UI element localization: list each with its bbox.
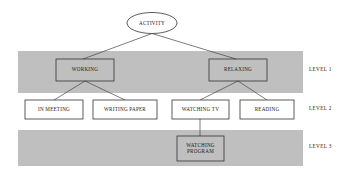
level-label-level-1: LEVEL 1 xyxy=(309,66,332,72)
level-labels: LEVEL 1LEVEL 2LEVEL 3 xyxy=(309,66,332,149)
node-label-watching-program-line-1: WATCHING xyxy=(186,142,215,148)
node-label-activity: ACTIVITY xyxy=(139,20,165,26)
node-writing-paper[interactable]: WRITING PAPER xyxy=(93,100,157,119)
diagram-canvas: ACTIVITYWORKINGRELAXINGIN MEETINGWRITING… xyxy=(0,0,350,174)
node-label-writing-paper: WRITING PAPER xyxy=(104,106,146,112)
level-band-band-level-1 xyxy=(18,51,303,93)
node-label-watching-program-line-2: PROGRAM xyxy=(187,148,214,154)
node-label-in-meeting: IN MEETING xyxy=(38,106,70,112)
node-activity[interactable]: ACTIVITY xyxy=(127,13,177,34)
node-reading[interactable]: READING xyxy=(240,100,294,119)
node-label-reading: READING xyxy=(255,106,280,112)
node-label-watching-tv: WATCHING TV xyxy=(182,106,219,112)
node-label-relaxing: RELAXING xyxy=(224,66,252,72)
level-label-level-3: LEVEL 3 xyxy=(309,143,332,149)
node-label-working: WORKING xyxy=(72,66,98,72)
node-in-meeting[interactable]: IN MEETING xyxy=(25,100,83,119)
node-watching-tv[interactable]: WATCHING TV xyxy=(172,100,229,119)
level-label-level-2: LEVEL 2 xyxy=(309,105,332,111)
level-band-band-level-3 xyxy=(18,130,303,166)
activity-hierarchy-diagram: ACTIVITYWORKINGRELAXINGIN MEETINGWRITING… xyxy=(0,0,350,174)
